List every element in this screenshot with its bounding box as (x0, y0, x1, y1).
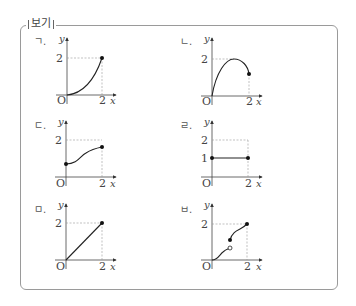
graph-label: ㄱ. (34, 36, 46, 47)
svg-text:2: 2 (55, 217, 62, 230)
svg-text:y: y (57, 116, 64, 127)
graph-label: ㄹ. (180, 120, 192, 131)
graph-label: ㅁ. (34, 204, 46, 215)
svg-text:x: x (256, 178, 262, 189)
graph-nieun: ㄴ. 2 O 2 x y (180, 33, 262, 108)
svg-text:2: 2 (201, 53, 208, 66)
svg-text:2: 2 (244, 260, 251, 273)
graph-mieum: ㅁ. 2 O 2 x y (34, 199, 116, 273)
svg-text:O: O (202, 95, 211, 108)
svg-text:O: O (57, 94, 66, 107)
svg-text:y: y (58, 33, 65, 44)
svg-text:y: y (203, 33, 210, 44)
svg-text:O: O (56, 260, 65, 273)
svg-text:x: x (110, 178, 116, 189)
svg-text:x: x (256, 96, 262, 107)
svg-text:2: 2 (99, 94, 106, 107)
graph-giyeok: ㄱ. 2 O 2 x y (34, 33, 116, 107)
svg-text:y: y (57, 199, 64, 210)
graphs-canvas: ㄱ. 2 O 2 x y ㄴ. 2 O 2 x y ㄷ. 2 (0, 0, 356, 306)
svg-text:2: 2 (99, 177, 106, 190)
svg-text:2: 2 (55, 134, 62, 147)
graph-digeut: ㄷ. 2 O 2 x y (34, 116, 116, 190)
svg-text:2: 2 (246, 95, 253, 108)
svg-text:2: 2 (201, 218, 208, 231)
svg-text:2: 2 (99, 260, 106, 273)
graph-rieul: ㄹ. 2 1 O 2 x y (180, 116, 262, 190)
svg-text:x: x (256, 261, 262, 272)
graph-bieup: ㅂ. 2 O 2 x y (180, 199, 262, 273)
svg-text:2: 2 (56, 52, 63, 65)
svg-text:O: O (56, 177, 65, 190)
svg-text:O: O (202, 260, 211, 273)
graph-label: ㄴ. (180, 36, 192, 47)
svg-text:y: y (203, 199, 210, 210)
svg-text:2: 2 (201, 134, 208, 147)
svg-text:x: x (110, 95, 116, 106)
svg-text:y: y (203, 116, 210, 127)
svg-text:O: O (202, 177, 211, 190)
svg-text:x: x (110, 261, 116, 272)
graph-label: ㅂ. (180, 204, 192, 215)
svg-text:1: 1 (201, 152, 208, 165)
graph-label: ㄷ. (34, 120, 46, 131)
svg-text:2: 2 (245, 177, 252, 190)
